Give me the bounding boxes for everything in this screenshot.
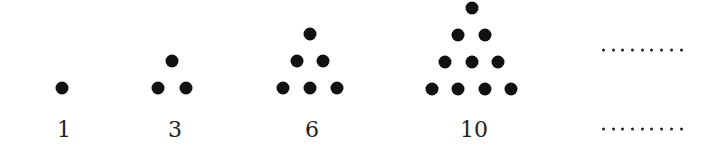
label-continuation-ellipsis <box>602 128 689 131</box>
ellipsis-dot <box>602 128 605 131</box>
dot <box>466 56 479 69</box>
dot <box>180 82 193 95</box>
dot <box>166 55 179 68</box>
dot <box>56 82 69 95</box>
ellipsis-dot <box>631 49 634 52</box>
ellipsis-dot <box>612 128 615 131</box>
dot <box>426 83 439 96</box>
dot <box>277 82 290 95</box>
ellipsis-dot <box>670 128 673 131</box>
ellipsis-dot <box>660 49 663 52</box>
figure-label: 1 <box>57 117 71 142</box>
ellipsis-dot <box>641 128 644 131</box>
dot <box>479 29 492 42</box>
ellipsis-dot <box>680 128 683 131</box>
ellipsis-dot <box>621 49 624 52</box>
ellipsis-dot <box>650 128 653 131</box>
ellipsis-dot <box>650 49 653 52</box>
dot <box>452 29 465 42</box>
dot <box>492 56 505 69</box>
dot <box>291 55 304 68</box>
dot <box>304 82 317 95</box>
dot <box>331 82 344 95</box>
figure-label: 10 <box>460 117 488 142</box>
figure-label: 6 <box>305 117 319 142</box>
ellipsis-dot <box>602 49 605 52</box>
ellipsis-dot <box>631 128 634 131</box>
triangular-numbers-diagram: 13610 <box>0 0 715 150</box>
dot <box>439 56 452 69</box>
dot <box>152 82 165 95</box>
dot <box>479 83 492 96</box>
ellipsis-dot <box>670 49 673 52</box>
ellipsis-dot <box>612 49 615 52</box>
ellipsis-dot <box>680 49 683 52</box>
dot <box>466 2 479 15</box>
dot <box>505 83 518 96</box>
dot <box>317 55 330 68</box>
ellipsis-dot <box>660 128 663 131</box>
ellipsis-dot <box>621 128 624 131</box>
dot <box>452 83 465 96</box>
ellipsis-dot <box>641 49 644 52</box>
figure-continuation-ellipsis <box>602 49 689 52</box>
dot <box>304 28 317 41</box>
figure-label: 3 <box>168 117 182 142</box>
